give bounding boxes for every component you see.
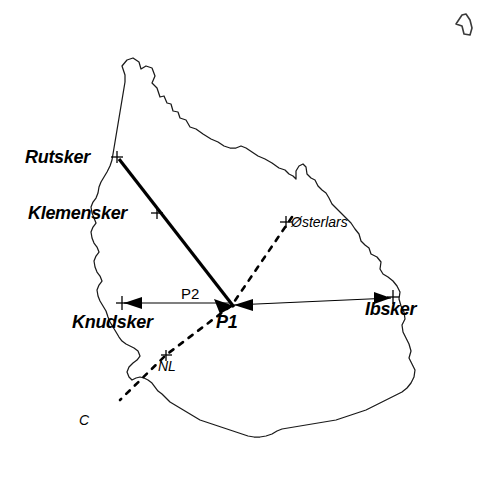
dashed-bearing-line-osterlars-c (120, 217, 292, 400)
arrowhead-p1-from-ibsker (234, 299, 253, 311)
map-figure: Rutsker Klemensker Østerlars Knudsker Ib… (0, 0, 485, 489)
cross-marker-klemensker (151, 207, 163, 219)
label-p2: P2 (181, 286, 199, 301)
label-osterlars: Østerlars (291, 215, 348, 229)
label-nl: NL (158, 359, 176, 373)
label-knudsker: Knudsker (72, 313, 153, 331)
bearing-lines-layer (0, 0, 485, 489)
thick-bearing-line-rutsker-p1 (119, 159, 234, 307)
cross-marker-knudsker (116, 296, 128, 310)
label-p1: P1 (216, 313, 237, 331)
label-klemensker: Klemensker (28, 204, 127, 222)
label-c: C (79, 413, 89, 427)
label-ibsker: Ibsker (365, 300, 416, 318)
label-rutsker: Rutsker (25, 148, 90, 166)
